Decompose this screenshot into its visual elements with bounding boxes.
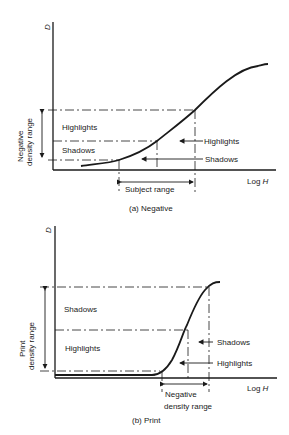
region-shadows: Shadows bbox=[62, 146, 95, 155]
range-label-2: density range bbox=[25, 117, 34, 166]
y-axis-label: D bbox=[43, 24, 52, 30]
region-shadows: Shadows bbox=[64, 305, 97, 314]
print-curve bbox=[55, 282, 220, 375]
x-axis-label: Log H bbox=[247, 384, 269, 393]
panel-negative bbox=[42, 22, 276, 192]
range-label-1: Print bbox=[18, 340, 27, 357]
tone-reproduction-diagram: D Log H Negative density range Highlight… bbox=[0, 0, 289, 435]
region-highlights: Highlights bbox=[65, 344, 100, 353]
subject-range-label: Subject range bbox=[125, 185, 175, 194]
range-label-2: density range bbox=[27, 321, 36, 370]
range-label-1: Negative bbox=[16, 130, 25, 162]
caption-negative: (a) Negative bbox=[129, 204, 173, 213]
arrow-label-highlights: Highlights bbox=[204, 137, 239, 146]
characteristic-curve bbox=[81, 64, 268, 166]
arrow-label-shadows: Shadows bbox=[217, 338, 250, 347]
arrow-label-shadows: Shadows bbox=[205, 155, 238, 164]
negative-range-label-2: density range bbox=[164, 402, 213, 411]
caption-print: (b) Print bbox=[132, 416, 161, 425]
arrow-label-highlights: Highlights bbox=[217, 359, 252, 368]
x-axis-label: Log H bbox=[247, 177, 269, 186]
region-highlights: Highlights bbox=[62, 123, 97, 132]
negative-range-label-1: Negative bbox=[165, 390, 197, 399]
y-axis-label: D bbox=[44, 227, 53, 233]
